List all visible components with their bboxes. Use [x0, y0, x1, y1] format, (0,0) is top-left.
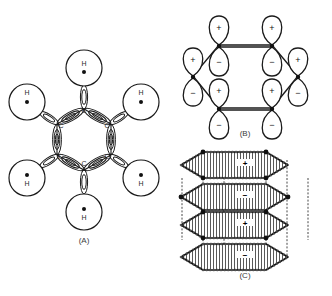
orbital-sign-negative: −: [216, 57, 221, 67]
pi-cloud-sign: +: [243, 219, 248, 228]
hydrogen-orbital-circle: [9, 160, 45, 196]
hydrogen-atom: H: [123, 160, 159, 196]
electron-dot: [139, 173, 143, 177]
pi-cloud-ring: +: [181, 212, 288, 238]
hydrogen-label: H: [138, 89, 143, 96]
orbital-node: [217, 107, 221, 111]
pi-cloud-sign: +: [243, 159, 248, 168]
hydrogen-orbital-circle: [66, 50, 102, 86]
electron-dot: [82, 70, 86, 74]
electron-dot: [25, 173, 29, 177]
orbital-sign-positive: +: [190, 55, 195, 65]
orbital-sign-negative: −: [190, 88, 195, 98]
orbital-node: [270, 107, 274, 111]
pi-cloud-ring: −: [181, 244, 288, 270]
figure-background: [0, 0, 332, 296]
electron-dot: [139, 100, 143, 104]
orbital-sign-negative: −: [216, 120, 221, 130]
carbon-label: C: [104, 153, 109, 160]
pi-cloud-sign: −: [243, 191, 248, 200]
electron-dot: [82, 207, 86, 211]
hydrogen-orbital-circle: [66, 194, 102, 230]
carbon-label: C: [81, 160, 86, 167]
orbital-sign-positive: +: [295, 55, 300, 65]
pi-cloud-ring: +: [181, 152, 288, 178]
orbital-sign-positive: +: [269, 86, 274, 96]
orbital-node: [296, 75, 300, 79]
orbital-sign-positive: +: [269, 23, 274, 33]
hydrogen-label: H: [24, 89, 29, 96]
hydrogen-orbital-circle: [123, 160, 159, 196]
hydrogen-label: H: [81, 214, 86, 221]
orbital-sign-negative: −: [269, 120, 274, 130]
orbital-sign-positive: +: [216, 86, 221, 96]
carbon-label: C: [58, 153, 63, 160]
hydrogen-atom: H: [123, 84, 159, 120]
hydrogen-label: H: [24, 180, 29, 187]
panel-b-caption: (B): [240, 129, 251, 138]
orbital-node: [270, 44, 274, 48]
hydrogen-label: H: [138, 180, 143, 187]
carbon-label: C: [58, 122, 63, 129]
hydrogen-atom: H: [9, 160, 45, 196]
orbital-sign-negative: −: [269, 57, 274, 67]
hydrogen-atom: H: [9, 84, 45, 120]
orbital-node: [217, 44, 221, 48]
orbital-sign-negative: −: [295, 88, 300, 98]
electron-dot: [25, 100, 29, 104]
pi-cloud-ring: −: [181, 184, 288, 210]
benzene-bonding-figure: H H H H H: [0, 0, 332, 296]
hydrogen-atom: H: [66, 50, 102, 86]
panel-c-caption: (C): [239, 271, 250, 280]
panel-a-caption: (A): [79, 236, 90, 245]
hydrogen-label: H: [81, 60, 86, 67]
hydrogen-atom: H: [66, 194, 102, 230]
pi-cloud-sign: −: [243, 251, 248, 260]
orbital-node: [191, 75, 195, 79]
carbon-label: C: [81, 107, 86, 114]
carbon-label: C: [104, 122, 109, 129]
orbital-sign-positive: +: [216, 23, 221, 33]
